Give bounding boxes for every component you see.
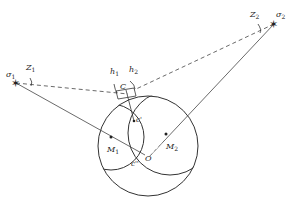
point-m2 <box>165 133 168 136</box>
label-sigma1: σ1 <box>6 70 15 80</box>
sight-line-sigma2 <box>148 24 274 158</box>
star-icon-sigma2: ✶ <box>269 18 278 31</box>
angle-arc-h1 <box>114 84 117 93</box>
dashed-line-sigma2 <box>134 24 274 90</box>
point-c-prime <box>133 120 136 123</box>
label-c-prime: c' <box>136 116 142 124</box>
sight-line-sigma1 <box>16 83 145 155</box>
label-c: C <box>120 82 126 91</box>
label-h2: h2 <box>129 65 138 75</box>
label-c-double-prime: c'' <box>131 160 139 168</box>
label-m2: M2 <box>165 142 178 152</box>
point-m1 <box>110 136 113 139</box>
label-o: O <box>145 154 152 163</box>
label-z1: Z1 <box>25 63 35 73</box>
label-sigma2: σ2 <box>276 10 285 20</box>
label-h1: h1 <box>110 67 119 77</box>
vertical-c <box>126 90 134 121</box>
label-m1: M1 <box>106 145 119 155</box>
celestial-navigation-diagram: ✶ ✶ σ1 σ2 Z1 Z2 h1 h2 C c' c'' O M1 M2 <box>0 0 288 201</box>
label-z2: Z2 <box>249 10 260 20</box>
